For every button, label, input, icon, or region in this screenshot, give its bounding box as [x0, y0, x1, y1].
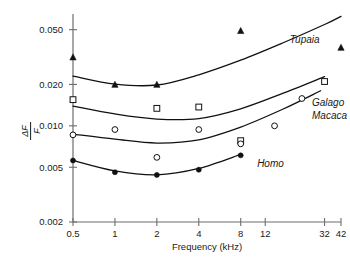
chart-container: 0.0020.0050.0100.0200.050 0.51248123242 … — [0, 0, 350, 263]
data-point-marker — [112, 127, 118, 133]
series-label-macaca: Macaca — [312, 110, 347, 121]
data-point-marker — [196, 127, 202, 133]
x-axis-tick-label: 4 — [196, 228, 201, 239]
delta-f-over-f-vs-frequency-chart: 0.0020.0050.0100.0200.050 0.51248123242 … — [0, 0, 350, 263]
x-axis-title: Frequency (kHz) — [172, 241, 242, 252]
y-axis-tick-label: 0.002 — [39, 216, 63, 227]
x-axis-tick-label: 8 — [238, 228, 243, 239]
data-point-marker — [196, 167, 201, 172]
data-point-marker — [238, 153, 243, 158]
y-axis-title-denominator: F — [32, 128, 42, 134]
x-axis-tick-label: 2 — [154, 228, 159, 239]
data-point-marker — [196, 104, 202, 110]
y-axis-tick-label: 0.005 — [39, 162, 63, 173]
data-point-marker — [299, 96, 305, 102]
data-point-marker — [272, 123, 278, 129]
x-axis-tick-label: 1 — [112, 228, 117, 239]
series-label-galago: Galago — [312, 97, 345, 108]
data-point-marker — [71, 158, 76, 163]
y-axis-tick-label: 0.050 — [39, 24, 63, 35]
y-axis-tick-label: 0.010 — [39, 120, 63, 131]
x-axis-tick-label: 0.5 — [66, 228, 79, 239]
x-axis-tick-label: 42 — [336, 228, 347, 239]
data-point-marker — [322, 79, 328, 85]
data-point-marker — [70, 132, 76, 138]
y-axis-title-numerator: ΔF — [20, 125, 30, 138]
data-point-marker — [154, 154, 160, 160]
series-label-tupaia: Tupaia — [290, 34, 320, 45]
data-point-marker — [238, 141, 244, 147]
data-point-marker — [154, 105, 160, 111]
data-point-marker — [154, 172, 159, 177]
y-axis-tick-label: 0.020 — [39, 79, 63, 90]
x-axis-tick-label: 32 — [319, 228, 330, 239]
x-axis-tick-label: 12 — [260, 228, 271, 239]
series-label-homo: Homo — [257, 158, 284, 169]
data-point-marker — [112, 170, 117, 175]
data-point-marker — [70, 97, 76, 103]
